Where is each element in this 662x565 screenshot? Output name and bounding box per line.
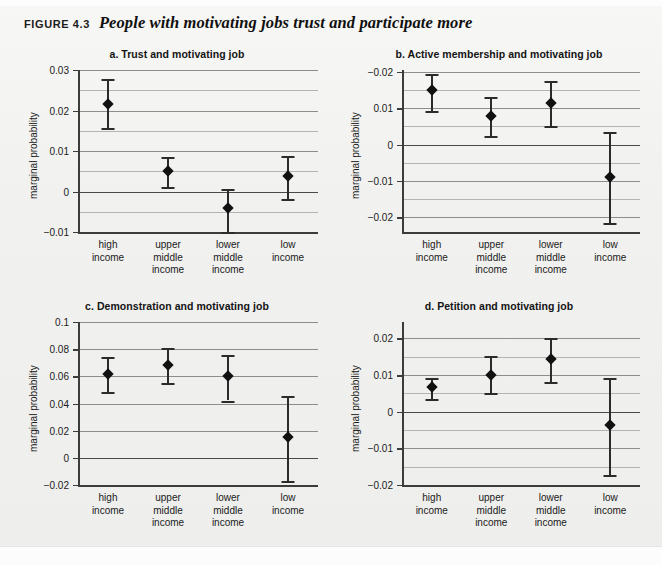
y-tick-label: 0.04 [18, 398, 69, 409]
error-bar-cap-upper [425, 378, 438, 380]
gridline-minor [78, 90, 318, 91]
y-tick-label: 0.02 [18, 105, 69, 116]
x-tick-label-line: upper [138, 492, 198, 505]
x-tick-label: highincome [78, 492, 138, 517]
x-tick-label: highincome [402, 239, 462, 264]
x-tick-label-line: low [581, 239, 641, 252]
figure-title: People with motivating jobs trust and pa… [99, 13, 472, 32]
error-bar-cap-upper [282, 156, 295, 158]
x-tick-label: highincome [78, 239, 138, 264]
error-bar-cap-upper [544, 338, 557, 340]
x-tick-label: uppermiddleincome [138, 239, 198, 277]
data-point-marker[interactable] [222, 371, 233, 382]
y-tick-label: −0.01 [340, 176, 393, 187]
error-bar-cap-lower [222, 401, 235, 403]
x-tick-label: lowermiddleincome [198, 492, 258, 530]
gridline-major [78, 111, 318, 112]
x-tick-label-line: middle [198, 505, 258, 518]
x-tick-label-line: lower [521, 239, 581, 252]
x-tick-label: lowermiddleincome [198, 239, 258, 277]
data-point-marker[interactable] [426, 84, 437, 95]
error-bar-cap-lower [282, 199, 295, 201]
y-tick-label: −0.02 [340, 212, 393, 223]
error-bar-cap-lower [162, 383, 175, 385]
x-tick-label-line: income [258, 505, 318, 518]
x-tick-label-line: high [78, 239, 138, 252]
y-tick-label: 0 [340, 139, 393, 150]
panel-title-d: d. Petition and motivating job [340, 300, 658, 312]
data-point-marker[interactable] [162, 360, 173, 371]
plot-area-b [402, 70, 640, 232]
x-tick-label-line: middle [521, 505, 581, 518]
x-tick-label-line: low [581, 492, 641, 505]
gridline-major [78, 70, 318, 71]
data-point-marker[interactable] [605, 419, 616, 430]
x-tick-label-line: income [581, 252, 641, 265]
data-point-marker[interactable] [162, 166, 173, 177]
y-tick-label: −0.02 [340, 66, 393, 77]
error-bar-cap-upper [485, 356, 498, 358]
gridline-major [402, 108, 640, 109]
x-tick-label-line: lower [198, 492, 258, 505]
x-tick-label-line: high [78, 492, 138, 505]
y-axis-line [402, 70, 404, 232]
y-tick-label: −0.01 [340, 443, 393, 454]
x-tick-label-line: low [258, 492, 318, 505]
gridline-major [402, 448, 640, 449]
error-bar-cap-upper [102, 357, 115, 359]
x-tick-label-line: middle [521, 252, 581, 265]
figure-number: FIGURE 4.3 [24, 18, 90, 30]
chart-panel-c: c. Demonstration and motivating jobmargi… [18, 300, 336, 550]
error-bar-cap-upper [102, 79, 115, 81]
x-tick-label-line: income [258, 252, 318, 265]
y-axis-line [402, 322, 404, 485]
x-tick-label-line: middle [198, 252, 258, 265]
x-tick-label-line: middle [462, 252, 522, 265]
x-tick-label-line: income [402, 252, 462, 265]
gridline-minor [402, 163, 640, 164]
panel-title-a: a. Trust and motivating job [18, 48, 336, 60]
y-tick-label: 0.06 [18, 371, 69, 382]
data-point-marker[interactable] [486, 369, 497, 380]
x-tick-label-line: upper [462, 239, 522, 252]
error-bar-cap-lower [544, 382, 557, 384]
error-bar-cap-lower [604, 223, 617, 225]
gridline-minor [402, 90, 640, 91]
error-bar-cap-upper [425, 74, 438, 76]
data-point-marker[interactable] [426, 382, 437, 393]
x-tick-label: highincome [402, 492, 462, 517]
data-point-marker[interactable] [282, 432, 293, 443]
gridline-minor [402, 430, 640, 431]
gridline-major [78, 404, 318, 405]
error-bar-cap-lower [544, 126, 557, 128]
x-axis-line [78, 232, 318, 234]
y-axis-line [78, 322, 80, 485]
y-tick-label: −0.02 [340, 480, 393, 491]
data-point-marker[interactable] [545, 353, 556, 364]
x-tick-label: lowermiddleincome [521, 492, 581, 530]
error-bar-cap-upper [544, 81, 557, 83]
panel-title-c: c. Demonstration and motivating job [18, 300, 336, 312]
data-point-marker[interactable] [102, 98, 113, 109]
error-bar-cap-lower [102, 392, 115, 394]
figure-caption: FIGURE 4.3People with motivating jobs tr… [24, 13, 472, 33]
x-tick-label-line: income [138, 264, 198, 277]
x-axis-line [78, 485, 318, 487]
error-bar-cap-lower [604, 475, 617, 477]
gridline-major [402, 181, 640, 182]
y-axis-line [78, 70, 80, 232]
x-tick-label-line: income [581, 505, 641, 518]
chart-panel-d: d. Petition and motivating jobmarginal p… [340, 300, 658, 550]
error-bar-cap-lower [485, 393, 498, 395]
gridline-major [78, 151, 318, 152]
data-point-marker[interactable] [486, 110, 497, 121]
gridline-major [78, 349, 318, 350]
data-point-marker[interactable] [102, 368, 113, 379]
x-tick-label-line: upper [462, 492, 522, 505]
y-tick-label: 0.03 [18, 65, 69, 76]
y-tick-label: 0 [340, 406, 393, 417]
error-bar-cap-lower [425, 399, 438, 401]
gridline-major [78, 431, 318, 432]
y-tick-label: −0.01 [18, 227, 69, 238]
y-tick-label: 0.02 [340, 333, 393, 344]
